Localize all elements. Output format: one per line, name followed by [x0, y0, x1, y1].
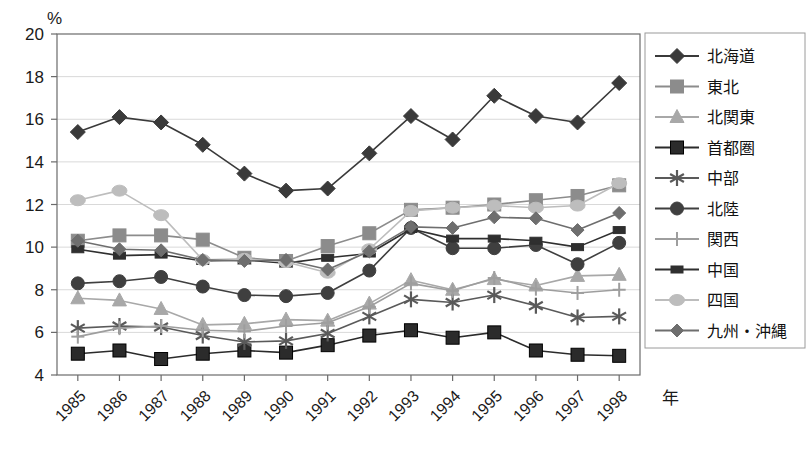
data-point-marker [447, 235, 459, 242]
data-point-marker [488, 242, 501, 255]
legend-entry-3[interactable]: 首都圏 [655, 139, 755, 158]
series-8 [70, 178, 626, 279]
data-point-marker [613, 207, 626, 220]
data-point-marker [670, 110, 684, 123]
legend-entry-8[interactable]: 四国 [655, 291, 739, 310]
data-point-marker [113, 275, 126, 288]
x-axis-label: 年 [662, 389, 679, 408]
data-point-marker [613, 349, 626, 362]
data-point-marker [237, 166, 252, 181]
data-point-marker [488, 326, 501, 339]
y-axis-unit-label: % [47, 9, 62, 28]
legend-label: 首都圏 [707, 139, 755, 158]
data-point-marker [671, 266, 683, 273]
data-point-marker [488, 235, 500, 242]
x-tick-label: 1987 [135, 387, 172, 424]
data-point-marker [446, 331, 459, 344]
series-0 [70, 76, 626, 199]
legend-label: 九州・沖縄 [707, 322, 787, 341]
data-point-marker [113, 229, 126, 242]
data-point-marker [446, 242, 459, 255]
x-tick-label: 1988 [177, 387, 214, 424]
data-point-marker [446, 221, 459, 234]
data-point-marker [112, 185, 127, 196]
y-axis-ticks: 468101214161820 [25, 25, 57, 385]
data-point-marker [280, 290, 293, 303]
legend-entry-9[interactable]: 九州・沖縄 [655, 322, 787, 341]
line-chart-figure: 468101214161820 198519861987198819891990… [0, 0, 807, 462]
y-tick-label: 8 [35, 281, 44, 300]
data-point-marker [671, 324, 684, 337]
data-point-marker [528, 109, 543, 124]
data-point-marker [321, 286, 334, 299]
data-point-marker [488, 211, 501, 224]
data-point-marker [671, 80, 684, 93]
data-point-marker [570, 200, 585, 211]
legend-entry-5[interactable]: 北陸 [655, 200, 739, 219]
legend-label: 四国 [707, 291, 739, 310]
data-point-marker [671, 202, 684, 215]
data-point-marker [113, 344, 126, 357]
legend-label: 東北 [707, 78, 739, 97]
data-point-marker [196, 347, 209, 360]
legend-label: 関西 [707, 230, 739, 249]
legend-entry-7[interactable]: 中国 [655, 261, 739, 280]
data-point-marker [613, 236, 626, 249]
data-point-marker [613, 227, 625, 234]
legend-entry-2[interactable]: 北関東 [655, 108, 755, 127]
x-tick-label: 1996 [510, 387, 547, 424]
data-point-marker [571, 348, 584, 361]
y-tick-label: 4 [35, 366, 44, 385]
legend-entry-1[interactable]: 東北 [655, 78, 739, 97]
data-point-marker [612, 178, 627, 189]
legend-entry-4[interactable]: 中部 [655, 169, 739, 188]
legend-label: 北陸 [707, 200, 739, 219]
legend-entry-6[interactable]: 関西 [655, 230, 739, 249]
x-tick-label: 1992 [343, 387, 380, 424]
data-point-marker [321, 316, 334, 330]
y-tick-label: 16 [25, 110, 44, 129]
data-point-marker [529, 298, 543, 314]
data-point-marker [404, 276, 417, 290]
data-point-marker [530, 237, 542, 244]
chart-container: 468101214161820 198519861987198819891990… [0, 0, 807, 462]
data-point-marker [671, 141, 684, 154]
legend-entry-0[interactable]: 北海道 [655, 47, 755, 66]
data-point-marker [529, 344, 542, 357]
data-point-marker [279, 183, 294, 198]
chart-legend: 北海道東北北関東首都圏中部北陸関西中国四国九州・沖縄 [645, 33, 805, 348]
x-tick-label: 1997 [551, 387, 588, 424]
x-tick-label: 1990 [260, 387, 297, 424]
data-point-marker [529, 212, 542, 225]
data-point-marker [71, 277, 84, 290]
y-tick-label: 18 [25, 68, 44, 87]
data-point-marker [195, 137, 210, 152]
data-point-marker [112, 110, 127, 125]
x-tick-label: 1985 [52, 387, 89, 424]
data-point-marker [572, 244, 584, 251]
x-tick-label: 1993 [385, 387, 422, 424]
y-tick-label: 14 [25, 153, 44, 172]
data-point-marker [363, 227, 376, 240]
data-point-marker [670, 295, 685, 306]
data-point-marker [155, 270, 168, 283]
y-tick-label: 20 [25, 25, 44, 44]
x-axis-ticks: 1985198619871988198919901991199219931994… [52, 375, 631, 424]
data-point-marker [671, 232, 684, 246]
data-point-marker [154, 210, 169, 221]
data-point-marker [571, 258, 584, 271]
data-point-marker [404, 324, 417, 337]
data-point-marker [238, 289, 251, 302]
x-tick-label: 1991 [302, 387, 339, 424]
data-point-marker [445, 202, 460, 213]
legend-label: 北海道 [707, 47, 755, 66]
data-point-marker [363, 264, 376, 277]
series-line [78, 295, 619, 342]
data-point-marker [70, 125, 85, 140]
legend-label: 北関東 [707, 108, 755, 127]
data-point-marker [363, 329, 376, 342]
data-point-marker [70, 195, 85, 206]
data-point-marker [196, 233, 209, 246]
data-point-marker [196, 280, 209, 293]
data-point-marker [571, 224, 584, 237]
